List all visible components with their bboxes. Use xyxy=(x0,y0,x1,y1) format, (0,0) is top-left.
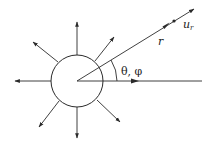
arrow-upper-left xyxy=(33,42,58,62)
angle-arc xyxy=(111,60,117,81)
unit-vector-label: ur xyxy=(183,18,194,32)
arrow-upper-right xyxy=(95,37,114,61)
spherical-source-diagram: ur r θ, φ xyxy=(0,0,209,147)
arrow-lower-right xyxy=(97,100,120,122)
radius-label: r xyxy=(158,35,164,48)
observation-point xyxy=(172,19,175,22)
reference-axis-arrowhead xyxy=(131,79,139,84)
arrow-lower-left xyxy=(39,101,59,127)
angle-label: θ, φ xyxy=(121,65,143,78)
